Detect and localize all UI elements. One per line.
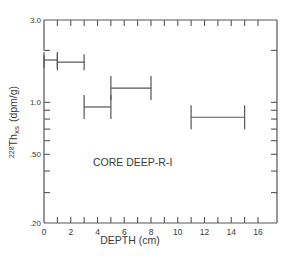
- interval-bar: [191, 105, 245, 129]
- y-label-units: (dpm/g): [7, 86, 19, 122]
- y-tick-label: 3.0: [30, 16, 42, 25]
- y-label-element: Th: [7, 134, 19, 146]
- interval-bar: [57, 54, 84, 70]
- data-intervals: [44, 52, 245, 129]
- x-tick-label: 16: [253, 227, 263, 237]
- interval-bar: [84, 95, 111, 119]
- y-tick-label: .50: [30, 150, 42, 159]
- y-axis-tick-labels: 3.01.0.50.20: [30, 16, 42, 228]
- x-tick-label: 12: [200, 227, 210, 237]
- y-tick-label: 1.0: [30, 98, 42, 107]
- svg-text:228Thxs(dpm/g): 228Thxs(dpm/g): [7, 86, 21, 158]
- x-axis-ticks: [57, 20, 258, 223]
- chart: 0246810121416 3.01.0.50.20 DEPTH (cm) CO…: [0, 0, 293, 258]
- y-label-subscript: xs: [12, 126, 21, 134]
- x-tick-label: 10: [173, 227, 183, 237]
- plot-frame: [44, 20, 277, 223]
- x-tick-label: 0: [42, 227, 47, 237]
- y-axis-label: 228Thxs(dpm/g): [7, 86, 21, 158]
- x-tick-label: 14: [227, 227, 237, 237]
- x-tick-label: 2: [68, 227, 73, 237]
- interval-bar: [111, 76, 151, 100]
- x-axis-label: DEPTH (cm): [100, 234, 160, 246]
- interval-bar: [44, 52, 57, 68]
- y-axis-ticks: [44, 50, 277, 192]
- y-label-mass: 228: [8, 146, 15, 158]
- annotation: CORE DEEP-R-I: [93, 156, 172, 168]
- y-tick-label: .20: [30, 219, 42, 228]
